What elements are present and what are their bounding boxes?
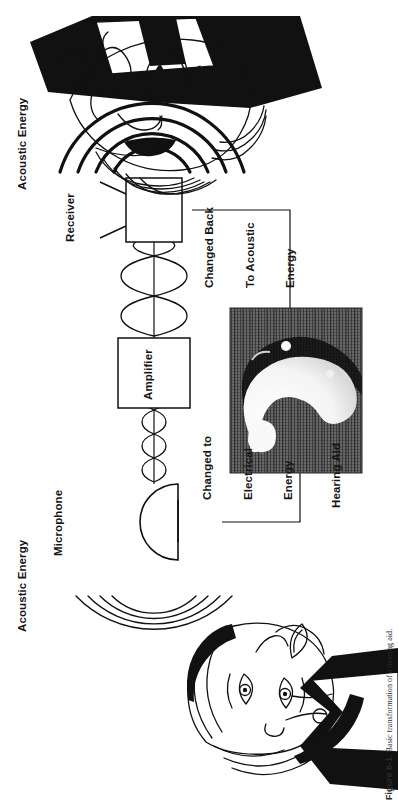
changed-to-electrical-line-3: Energy xyxy=(282,436,296,500)
figure-canvas: Acoustic Energy Microphone Changed to El… xyxy=(0,0,398,808)
label-microphone: Microphone xyxy=(52,490,66,556)
label-amplifier: Amplifier xyxy=(142,349,156,400)
figure-number: Figure 8-1. xyxy=(384,754,394,800)
figure-caption-holder: Figure 8-1. Basic transformation of a he… xyxy=(380,504,396,804)
label-acoustic-energy-output: Acoustic Energy xyxy=(16,98,30,190)
label-receiver: Receiver xyxy=(64,193,78,242)
label-hearing-aid: Hearing Aid xyxy=(330,443,344,508)
changed-back-line-3: Energy xyxy=(284,207,298,288)
changed-back-line-1: Changed Back xyxy=(203,207,217,288)
label-changed-to-electrical-energy: Changed to Electrical Energy xyxy=(174,436,323,500)
acoustic-waves-input xyxy=(76,596,232,629)
speaker-face-illustration xyxy=(187,623,398,790)
microphone-symbol xyxy=(140,484,178,560)
figure-caption-text: Basic transformation of a hearing aid. xyxy=(385,629,394,753)
changed-to-electrical-line-2: Electrical xyxy=(242,436,256,500)
changed-to-electrical-line-1: Changed to xyxy=(201,436,215,500)
hearing-aid-flow-diagram xyxy=(0,0,398,808)
changed-back-line-2: To Acoustic xyxy=(244,207,258,288)
rotated-figure-wrapper: Acoustic Energy Microphone Changed to El… xyxy=(0,0,398,808)
label-acoustic-energy-input: Acoustic Energy xyxy=(16,540,30,632)
label-changed-back-to-acoustic-energy: Changed Back To Acoustic Energy xyxy=(176,207,325,288)
